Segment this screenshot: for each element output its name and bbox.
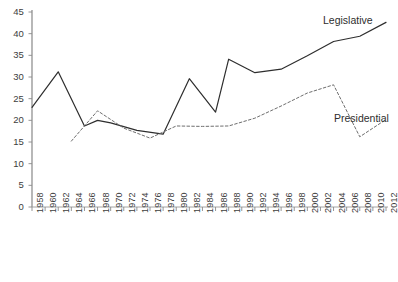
x-axis-tick-label: 2004	[338, 192, 347, 213]
x-axis-tick-label: 1964	[75, 192, 84, 213]
y-axis-tick-label: 10	[2, 159, 24, 169]
x-axis-tick-label: 1996	[285, 192, 294, 213]
x-axis-tick-label: 1988	[233, 192, 242, 213]
y-axis-tick-label: 25	[2, 94, 24, 104]
series-line-legislative	[32, 22, 386, 134]
x-axis-tick-label: 1984	[206, 192, 215, 213]
x-axis-tick-label: 2000	[311, 192, 320, 213]
x-axis-tick-label: 1972	[128, 192, 137, 213]
x-axis-tick-label: 2006	[351, 192, 360, 213]
x-axis-tick-label: 1974	[141, 192, 150, 213]
x-axis-tick-label: 2008	[364, 192, 373, 213]
x-axis-tick-label: 1986	[220, 192, 229, 213]
chart-plot-area	[0, 0, 398, 282]
x-axis-tick-label: 2012	[390, 192, 398, 213]
x-axis-tick-label: 1970	[115, 192, 124, 213]
y-axis-tick-label: 20	[2, 115, 24, 125]
x-axis-tick-label: 1968	[102, 192, 111, 213]
x-axis-tick-label: 1998	[298, 192, 307, 213]
x-axis-tick-label: 1958	[36, 192, 45, 213]
x-axis-tick-label: 1976	[154, 192, 163, 213]
x-axis-tick-label: 1980	[180, 192, 189, 213]
chart-series-lines	[32, 22, 386, 141]
chart-container: 051015202530354045 195819601962196419661…	[0, 0, 398, 282]
series-label-presidential: Presidential	[334, 113, 389, 124]
x-axis-tick-label: 1992	[259, 192, 268, 213]
x-axis-tick-label: 1966	[88, 192, 97, 213]
y-axis-tick-label: 45	[2, 7, 24, 17]
x-axis-tick-label: 2010	[377, 192, 386, 213]
y-axis-tick-label: 15	[2, 137, 24, 147]
y-axis-tick-label: 35	[2, 50, 24, 60]
x-axis-tick-label: 2002	[324, 192, 333, 213]
y-axis-tick-label: 40	[2, 29, 24, 39]
x-axis-tick-label: 1994	[272, 192, 281, 213]
x-axis-tick-label: 1982	[193, 192, 202, 213]
chart-axes	[32, 10, 388, 207]
y-axis-tick-label: 0	[2, 202, 24, 212]
x-axis-tick-label: 1960	[49, 192, 58, 213]
y-axis-tick-label: 30	[2, 72, 24, 82]
x-axis-tick-label: 1962	[62, 192, 71, 213]
x-axis-tick-label: 1990	[246, 192, 255, 213]
y-axis-tick-label: 5	[2, 180, 24, 190]
x-axis-tick-label: 1978	[167, 192, 176, 213]
series-label-legislative: Legislative	[323, 15, 373, 26]
